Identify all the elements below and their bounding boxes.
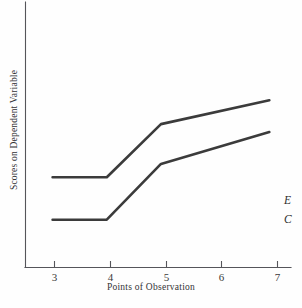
y-axis-title: Scores on Dependent Variable [9, 30, 19, 230]
x-axis-title: Points of Observation [0, 282, 302, 292]
series-label-control: C [284, 213, 292, 225]
series-line-control [53, 132, 270, 220]
chart-plot-area: 3 4 5 6 7 E C [0, 0, 302, 308]
series-label-experimental: E [283, 194, 291, 206]
chart-figure: 3 4 5 6 7 E C Points of Observation Scor… [0, 0, 302, 308]
